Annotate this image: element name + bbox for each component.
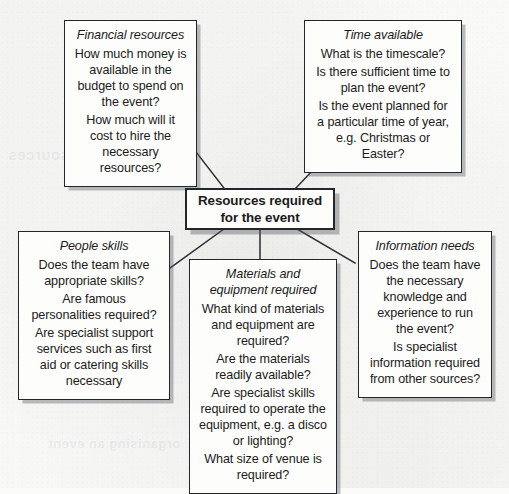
node-heading: People skills — [28, 239, 160, 255]
center-node[interactable]: Resources required for the event — [185, 188, 335, 230]
node-heading: Time available — [314, 28, 452, 44]
node-item: What size of venue is required? — [199, 452, 327, 484]
node-heading: Information needs — [368, 239, 482, 255]
node-item: Does the team have the necessary knowled… — [368, 258, 482, 338]
node-item: How much will it cost to hire the necess… — [74, 113, 187, 177]
node-time-available[interactable]: Time available What is the timescale? Is… — [304, 20, 462, 173]
node-item: Does the team have appropriate skills? — [28, 258, 160, 290]
node-item: How much money is available in the budge… — [74, 47, 187, 111]
node-item: What kind of materials and equipment are… — [199, 302, 327, 350]
node-item: Is the event planned for a particular ti… — [314, 99, 452, 163]
connector-center-to-information-needs — [297, 229, 355, 263]
connector-center-to-financial-resources — [196, 152, 224, 188]
node-item: Are famous personalities required? — [28, 292, 160, 324]
node-heading: Materials and equipment required — [199, 267, 327, 299]
node-item: What is the timescale? — [314, 47, 452, 63]
center-node-label: Resources required for the event — [197, 192, 323, 227]
node-materials-and-equipment-required[interactable]: Materials and equipment required What ki… — [189, 259, 337, 494]
node-item: Is there sufficient time to plan the eve… — [314, 65, 452, 97]
node-item: Are specialist skills required to operat… — [199, 386, 327, 450]
node-item: Are the materials readily available? — [199, 352, 327, 384]
node-information-needs[interactable]: Information needs Does the team have the… — [358, 231, 492, 398]
node-people-skills[interactable]: People skills Does the team have appropr… — [18, 231, 170, 400]
background-bleed-bottom-left: organising an event — [48, 436, 180, 451]
node-item: Is specialist information required from … — [368, 340, 482, 388]
node-item: Are specialist support services such as … — [28, 326, 160, 390]
node-heading: Financial resources — [74, 28, 187, 44]
node-financial-resources[interactable]: Financial resources How much money is av… — [64, 20, 197, 187]
